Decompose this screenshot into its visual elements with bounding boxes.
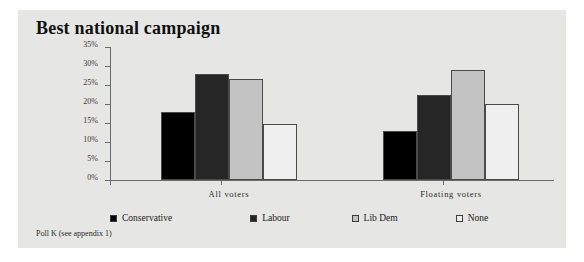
x-axis-group-label: Floating voters <box>383 189 519 199</box>
legend-item-none[interactable]: None <box>456 213 489 223</box>
y-axis-tick-label: 0% <box>87 173 98 182</box>
y-axis-tick: 20% <box>105 104 110 105</box>
footnote: Poll K (see appendix 1) <box>36 229 112 238</box>
legend-label: Labour <box>262 213 289 223</box>
x-axis-tick <box>443 181 444 185</box>
legend-item-lib-dem[interactable]: Lib Dem <box>352 213 398 223</box>
legend-swatch-icon <box>110 215 117 222</box>
y-axis-tick: 15% <box>105 123 110 124</box>
x-axis-line <box>110 180 554 181</box>
bar-labour <box>195 74 229 180</box>
y-axis-tick-label: 10% <box>83 135 98 144</box>
bar-none <box>485 104 519 180</box>
bar-group: All voters <box>161 46 297 180</box>
bar-conservative <box>161 112 195 180</box>
x-axis-tick <box>221 181 222 185</box>
y-axis-line <box>110 47 111 181</box>
plot-area: 0%5%10%15%20%25%30%35% All votersFloatin… <box>110 47 554 181</box>
y-axis-tick-label: 15% <box>83 116 98 125</box>
y-axis-tick-label: 25% <box>83 78 98 87</box>
y-axis-tick: 25% <box>105 85 110 86</box>
legend-label: None <box>468 213 489 223</box>
legend-label: Lib Dem <box>364 213 398 223</box>
y-axis-tick-label: 20% <box>83 97 98 106</box>
legend-swatch-icon <box>250 215 257 222</box>
x-axis-group-label: All voters <box>161 189 297 199</box>
bar-none <box>263 124 297 180</box>
bar-lib-dem <box>451 70 485 180</box>
y-axis-tick: 10% <box>105 142 110 143</box>
legend-item-conservative[interactable]: Conservative <box>110 213 172 223</box>
bar-lib-dem <box>229 79 263 180</box>
y-axis-tick-label: 5% <box>87 154 98 163</box>
bar-labour <box>417 95 451 181</box>
y-axis-tick-label: 35% <box>83 40 98 49</box>
legend-label: Conservative <box>122 213 172 223</box>
chart-panel: Best national campaign 0%5%10%15%20%25%3… <box>18 10 566 248</box>
bar-group: Floating voters <box>383 46 519 180</box>
legend-item-labour[interactable]: Labour <box>250 213 289 223</box>
legend-swatch-icon <box>456 215 463 222</box>
y-axis-tick: 30% <box>105 66 110 67</box>
legend-swatch-icon <box>352 215 359 222</box>
bar-conservative <box>383 131 417 180</box>
chart-legend: ConservativeLabourLib DemNone <box>110 213 510 223</box>
x-axis-tick-origin <box>110 181 111 185</box>
y-axis-tick: 5% <box>105 161 110 162</box>
page-title: Best national campaign <box>36 18 220 39</box>
y-axis-tick-label: 30% <box>83 59 98 68</box>
y-axis-tick: 35% <box>105 47 110 48</box>
